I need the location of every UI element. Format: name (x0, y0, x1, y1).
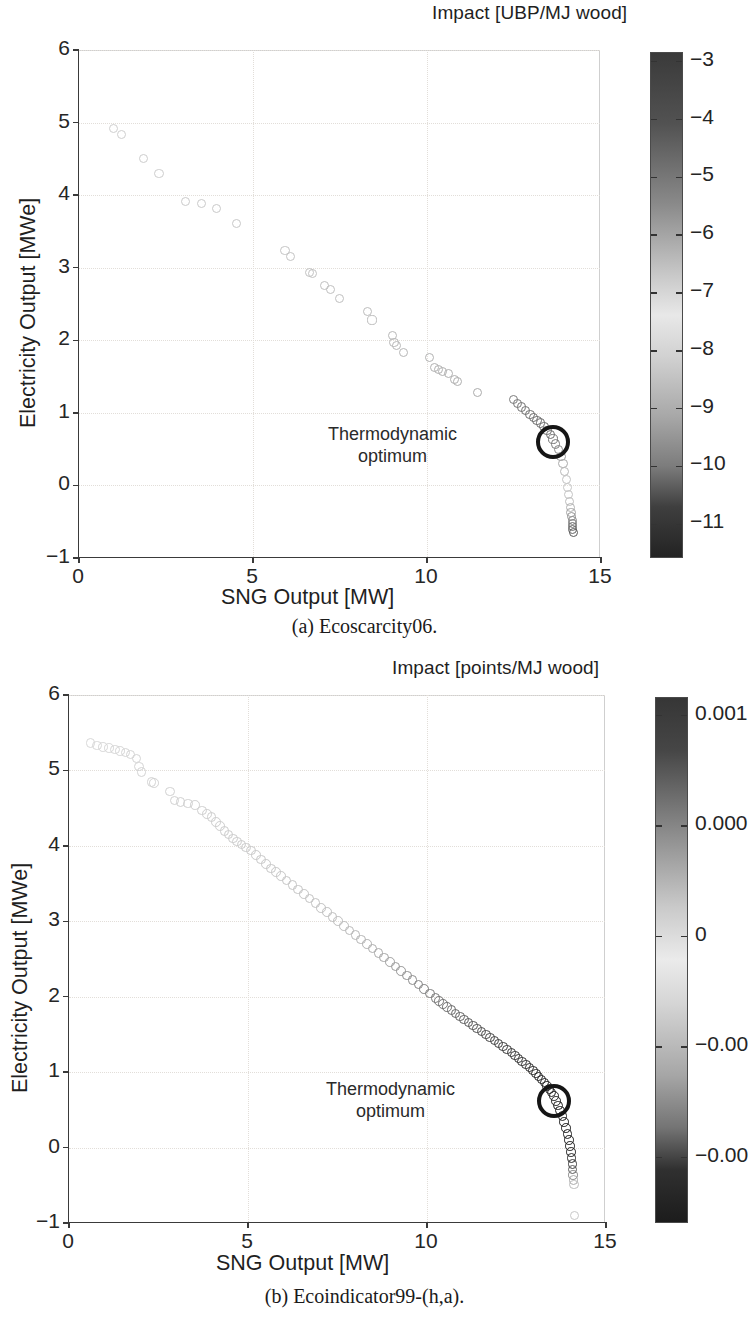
colorbar-tick (676, 234, 682, 235)
y-axis-tick-label: 0 (30, 471, 70, 495)
colorbar-tick (656, 1046, 662, 1047)
y-axis-tick (73, 122, 79, 123)
y-axis-tick-label: 1 (30, 399, 70, 423)
gridline-horizontal (69, 997, 605, 998)
x-axis-tick (426, 1222, 427, 1228)
colorbar-tick (676, 524, 682, 525)
y-axis-tick (63, 694, 69, 695)
gridline-vertical (427, 50, 428, 557)
gridline-horizontal (79, 50, 600, 51)
y-axis-tick-label: 1 (20, 1058, 60, 1082)
colorbar-tick (676, 292, 682, 293)
thermodynamic-optimum-marker (536, 425, 570, 459)
colorbar-tick (656, 715, 662, 716)
data-point (425, 353, 434, 362)
colorbar-tick (676, 408, 682, 409)
x-axis-tick-label: 15 (575, 564, 625, 588)
colorbar-title-a: Impact [UBP/MJ wood] (432, 2, 627, 24)
colorbar-tick-label: 0.000 (695, 811, 748, 835)
data-point (570, 1211, 580, 1221)
x-axis-title-b: SNG Output [MW] (216, 1251, 389, 1276)
colorbar-tick (656, 1157, 662, 1158)
x-axis-tick (247, 1222, 248, 1228)
y-axis-tick (73, 194, 79, 195)
x-axis-tick (600, 557, 601, 563)
annotation-line-2-a: optimum (328, 446, 457, 468)
data-point (453, 377, 462, 386)
y-axis-tick (63, 770, 69, 771)
colorbar-tick-label: −9 (690, 394, 714, 418)
colorbar-tick (681, 936, 687, 937)
thermodynamic-optimum-marker (537, 1084, 571, 1118)
y-axis-tick-label: 6 (30, 36, 70, 60)
colorbar-tick (656, 936, 662, 937)
caption-a: (a) Ecoscarcity06. (0, 615, 729, 638)
gridline-horizontal (69, 846, 605, 847)
data-point (399, 348, 408, 357)
figure-ecoscarcity06: Impact [UBP/MJ wood] Electricity Output … (0, 0, 729, 655)
thermodynamic-optimum-annotation-b: Thermodynamic optimum (326, 1079, 455, 1123)
y-axis-tick-label: 3 (30, 254, 70, 278)
gridline-horizontal (69, 1148, 605, 1149)
colorbar-tick-label: −0.00 (695, 1032, 748, 1056)
gridline-horizontal (79, 195, 600, 196)
x-axis-tick-label: 5 (222, 1229, 272, 1253)
x-axis-tick (68, 1222, 69, 1228)
data-point (165, 787, 175, 797)
data-point (569, 1180, 579, 1190)
plot-right-border-b (604, 695, 605, 1222)
figure-ecoindicator99: Impact [points/MJ wood] Electricity Outp… (0, 655, 729, 1325)
data-point (181, 197, 190, 206)
y-axis-tick-label: 2 (20, 983, 60, 1007)
thermodynamic-optimum-annotation-a: Thermodynamic optimum (328, 424, 457, 468)
colorbar-tick (676, 119, 682, 120)
data-point (149, 778, 159, 788)
colorbar-tick-label: −11 (690, 509, 724, 533)
gridline-horizontal (79, 340, 600, 341)
colorbar-tick-label: −0.00 (695, 1143, 748, 1167)
data-point (154, 169, 163, 178)
data-point (335, 294, 344, 303)
colorbar-tick (676, 350, 682, 351)
y-axis-tick-label: 4 (20, 832, 60, 856)
data-point (473, 388, 482, 397)
colorbar-tick (651, 408, 657, 409)
gridline-horizontal (79, 123, 600, 124)
y-axis-tick (73, 412, 79, 413)
y-axis-tick-label: 5 (20, 756, 60, 780)
y-axis-tick (63, 1071, 69, 1072)
colorbar-tick (651, 350, 657, 351)
y-axis-title-a: Electricity Output [MWe] (16, 198, 41, 428)
colorbar-tick (651, 292, 657, 293)
colorbar-tick (651, 524, 657, 525)
y-axis-tick-label: 0 (20, 1134, 60, 1158)
colorbar-b (655, 697, 688, 1223)
y-axis-tick-label: 3 (20, 907, 60, 931)
y-axis-tick (63, 921, 69, 922)
gridline-horizontal (79, 485, 600, 486)
y-axis-tick (63, 1147, 69, 1148)
colorbar-tick (681, 825, 687, 826)
colorbar-tick (676, 177, 682, 178)
gridline-vertical (253, 50, 254, 557)
colorbar-tick (651, 61, 657, 62)
colorbar-title-b: Impact [points/MJ wood] (392, 657, 599, 679)
colorbar-tick (681, 715, 687, 716)
colorbar-tick-label: −10 (690, 451, 726, 475)
data-point (212, 204, 221, 213)
annotation-line-1-a: Thermodynamic (328, 424, 457, 446)
colorbar-tick (681, 1157, 687, 1158)
x-axis-title-a: SNG Output [MW] (221, 585, 394, 610)
colorbar-tick-label: 0 (695, 922, 707, 946)
x-axis-tick-label: 10 (401, 564, 451, 588)
colorbar-tick-label: −3 (690, 47, 714, 71)
x-axis-tick (78, 557, 79, 563)
colorbar-tick (656, 825, 662, 826)
data-point (139, 154, 148, 163)
data-point (232, 219, 241, 228)
gridline-horizontal (69, 1072, 605, 1073)
x-axis-tick-label: 5 (227, 564, 277, 588)
data-point (326, 285, 335, 294)
colorbar-tick-label: −4 (690, 105, 714, 129)
